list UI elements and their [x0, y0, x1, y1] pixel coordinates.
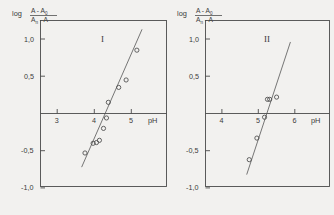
x-tick-label-4-II: 4	[220, 116, 224, 125]
x-axis-label-I: pH	[148, 116, 157, 125]
y-axis-label-numerator-II: A - A0	[196, 7, 213, 16]
figure-container: log A - A0 An - A 1,0 0,5 -0,5 -1,0	[0, 0, 334, 215]
x-ticks-I	[57, 109, 131, 114]
plot-svg-II: log A - A0 An - A 1,0 0,5 -0,5 -1,0	[167, 0, 334, 215]
data-points-I	[83, 48, 139, 155]
x-tick-label-4-I: 4	[92, 116, 96, 125]
data-point	[124, 78, 128, 82]
plot-svg-I: log A - A0 An - A 1,0 0,5 -0,5 -1,0	[0, 0, 167, 215]
data-point	[117, 85, 121, 89]
data-point	[135, 48, 139, 52]
x-axis-label-II: pH	[311, 116, 320, 125]
panel-numeral-I: I	[101, 34, 104, 44]
y-axis-label-II: log A - A0 An - A	[177, 7, 222, 25]
fit-line-group-I	[82, 29, 142, 167]
x-tick-label-5-II: 5	[256, 116, 260, 125]
x-tick-label-3-I: 3	[55, 116, 59, 125]
data-point	[247, 158, 251, 162]
panel-I: log A - A0 An - A 1,0 0,5 -0,5 -1,0	[0, 0, 167, 215]
y-tick-labels-II: 1,0 0,5 -0,5 -1,0	[186, 35, 199, 193]
y-axis-label-I: log A - A0 An - A	[12, 7, 57, 25]
panel-II: log A - A0 An - A 1,0 0,5 -0,5 -1,0	[167, 0, 334, 215]
data-point	[104, 116, 108, 120]
plot-frame-II	[206, 21, 330, 187]
x-tick-label-5-I: 5	[129, 116, 133, 125]
data-point	[101, 126, 105, 130]
y-tick-label-neg0-5-II: -0,5	[186, 146, 198, 155]
data-point	[274, 95, 278, 99]
fit-line-I	[82, 29, 142, 167]
x-tick-labels-II: 4 5 6	[220, 116, 297, 125]
data-point	[83, 151, 87, 155]
x-tick-label-6-II: 6	[292, 116, 296, 125]
y-tick-labels-I: 1,0 0,5 -0,5 -1,0	[21, 35, 34, 193]
y-tick-label-0-5-II: 0,5	[189, 72, 199, 81]
y-tick-label-0-5-I: 0,5	[24, 72, 34, 81]
data-points-II	[247, 95, 279, 162]
y-tick-label-1-0-II: 1,0	[189, 35, 199, 44]
y-tick-label-1-0-I: 1,0	[24, 35, 34, 44]
y-axis-label-prefix-II: log	[177, 9, 187, 18]
x-ticks-II	[222, 109, 295, 114]
fit-line-group-II	[247, 42, 291, 175]
x-tick-labels-I: 3 4 5	[55, 116, 133, 125]
y-axis-label-prefix-I: log	[12, 9, 22, 18]
y-tick-label-neg0-5-I: -0,5	[21, 146, 33, 155]
y-axis-label-numerator-I: A - A0	[31, 7, 48, 16]
data-point	[97, 138, 101, 142]
panel-numeral-II: II	[264, 34, 270, 44]
plot-frame-I	[41, 21, 167, 187]
y-tick-label-neg1-0-II: -1,0	[186, 183, 198, 192]
y-tick-label-neg1-0-I: -1,0	[21, 183, 33, 192]
fit-line-II	[247, 42, 291, 175]
